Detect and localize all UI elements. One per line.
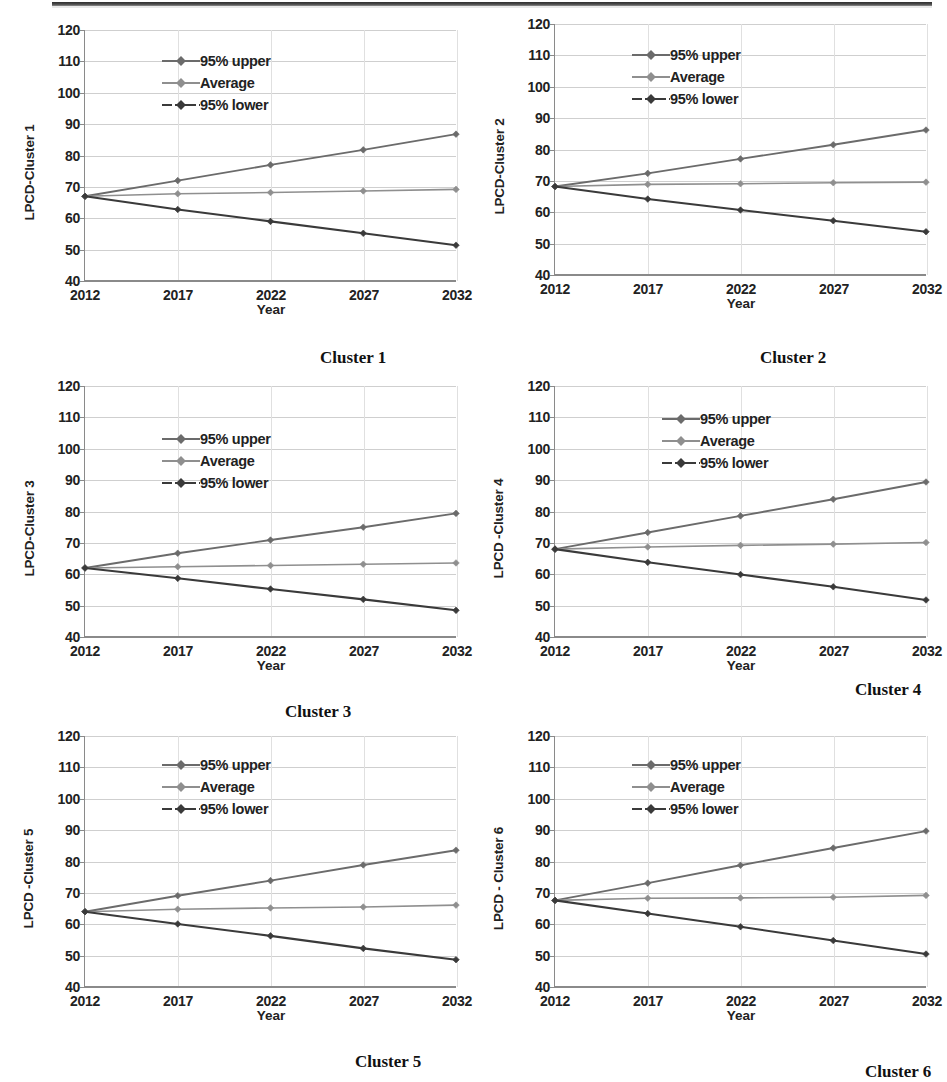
y-tick-label: 90 [516,472,550,488]
y-axis-label: LPCD -Cluster 4 [488,386,510,671]
data-point-lower [923,228,930,235]
figure-page: LPCD-Cluster 112011010090807060504020122… [0,0,947,1082]
y-tick-mark [550,275,555,276]
y-tick-label: 100 [516,441,550,457]
legend-marker-average-icon [162,77,200,89]
legend-marker-lower-icon [662,457,700,469]
legend-item-lower[interactable]: 95% lower [632,798,741,819]
y-tick-label: 90 [46,822,80,838]
legend-marker-average-icon [632,71,670,83]
chart-cluster-1: LPCD-Cluster 112011010090807060504020122… [18,30,458,315]
x-tick-label: 2022 [726,993,756,1009]
x-axis-line [555,986,926,987]
legend-item-upper[interactable]: 95% upper [632,44,741,65]
y-axis-label: LPCD-Cluster 2 [488,24,510,309]
y-tick-label: 60 [46,210,80,226]
x-tick-label: 2027 [819,281,849,297]
x-tick-label: 2032 [442,287,472,303]
legend-item-average[interactable]: Average [162,72,271,93]
chart-cluster-6: LPCD - Cluster 6120110100908070605040201… [488,736,928,1021]
chart-inner: LPCD-Cluster 112011010090807060504020122… [18,30,458,315]
legend-item-lower[interactable]: 95% lower [662,452,771,473]
y-tick-mark [550,987,555,988]
chart-caption-cluster-3: Cluster 3 [285,702,351,722]
data-point-average [644,895,651,902]
data-point-lower [82,908,89,915]
data-point-lower [923,951,930,958]
x-axis-label: Year [554,658,928,673]
data-point-lower [174,921,181,928]
legend-item-lower[interactable]: 95% lower [632,88,741,109]
data-point-lower [360,230,367,237]
x-axis-label: Year [84,658,458,673]
x-tick-label: 2017 [633,993,663,1009]
x-tick-label: 2022 [256,993,286,1009]
data-point-upper [174,177,181,184]
x-tick-label: 2032 [912,643,942,659]
data-point-lower [552,546,559,553]
legend-item-upper[interactable]: 95% upper [162,754,271,775]
legend-item-average[interactable]: Average [662,430,771,451]
data-point-average [453,902,460,909]
y-tick-label: 120 [46,22,80,38]
y-axis-label-text: LPCD-Cluster 1 [22,124,37,220]
legend-label: 95% lower [700,455,768,471]
y-tick-label: 60 [516,566,550,582]
data-point-upper [267,537,274,544]
legend-marker-lower-icon [632,803,670,815]
legend-item-average[interactable]: Average [632,66,741,87]
data-point-lower [267,933,274,940]
y-gridline [555,275,926,276]
x-tick-label: 2027 [349,643,379,659]
legend-label: Average [200,75,255,91]
data-point-lower [923,597,930,604]
y-tick-label: 80 [46,148,80,164]
data-point-lower [267,218,274,225]
x-tick-label: 2017 [163,643,193,659]
legend-item-lower[interactable]: 95% lower [162,798,271,819]
y-tick-label: 70 [46,179,80,195]
data-point-average [737,895,744,902]
chart-inner: LPCD-Cluster 212011010090807060504020122… [488,24,928,309]
legend-item-upper[interactable]: 95% upper [632,754,741,775]
legend-marker-lower-icon [162,477,200,489]
x-axis-label: Year [84,302,458,317]
legend-item-lower[interactable]: 95% lower [162,472,271,493]
data-point-lower [830,937,837,944]
x-tick-label: 2017 [633,643,663,659]
legend-item-upper[interactable]: 95% upper [162,428,271,449]
legend-item-lower[interactable]: 95% lower [162,94,271,115]
legend-item-average[interactable]: Average [162,450,271,471]
legend-item-upper[interactable]: 95% upper [662,408,771,429]
x-axis-line [85,636,456,637]
x-tick-label: 2027 [819,643,849,659]
x-axis-line [85,280,456,281]
chart-legend: 95% upperAverage95% lower [662,408,771,473]
data-point-average [267,189,274,196]
legend-label: 95% upper [670,757,741,773]
data-point-average [830,541,837,548]
y-tick-label: 110 [46,409,80,425]
y-tick-label: 120 [46,378,80,394]
legend-item-upper[interactable]: 95% upper [162,50,271,71]
data-point-upper [830,845,837,852]
legend-label: Average [200,453,255,469]
y-tick-label: 50 [46,948,80,964]
x-tick-label: 2032 [912,281,942,297]
data-point-lower [453,607,460,614]
y-gridline [85,987,456,988]
y-tick-label: 60 [516,204,550,220]
data-point-average [737,542,744,549]
legend-label: 95% upper [700,411,771,427]
y-tick-label: 110 [516,47,550,63]
data-point-average [923,179,930,186]
y-gridline [555,987,926,988]
legend-item-average[interactable]: Average [162,776,271,797]
chart-cluster-3: LPCD-Cluster 312011010090807060504020122… [18,386,458,671]
y-tick-label: 80 [46,504,80,520]
y-tick-label: 50 [516,948,550,964]
legend-item-average[interactable]: Average [632,776,741,797]
y-tick-label: 100 [46,791,80,807]
y-tick-label: 90 [46,116,80,132]
data-point-lower [552,183,559,190]
